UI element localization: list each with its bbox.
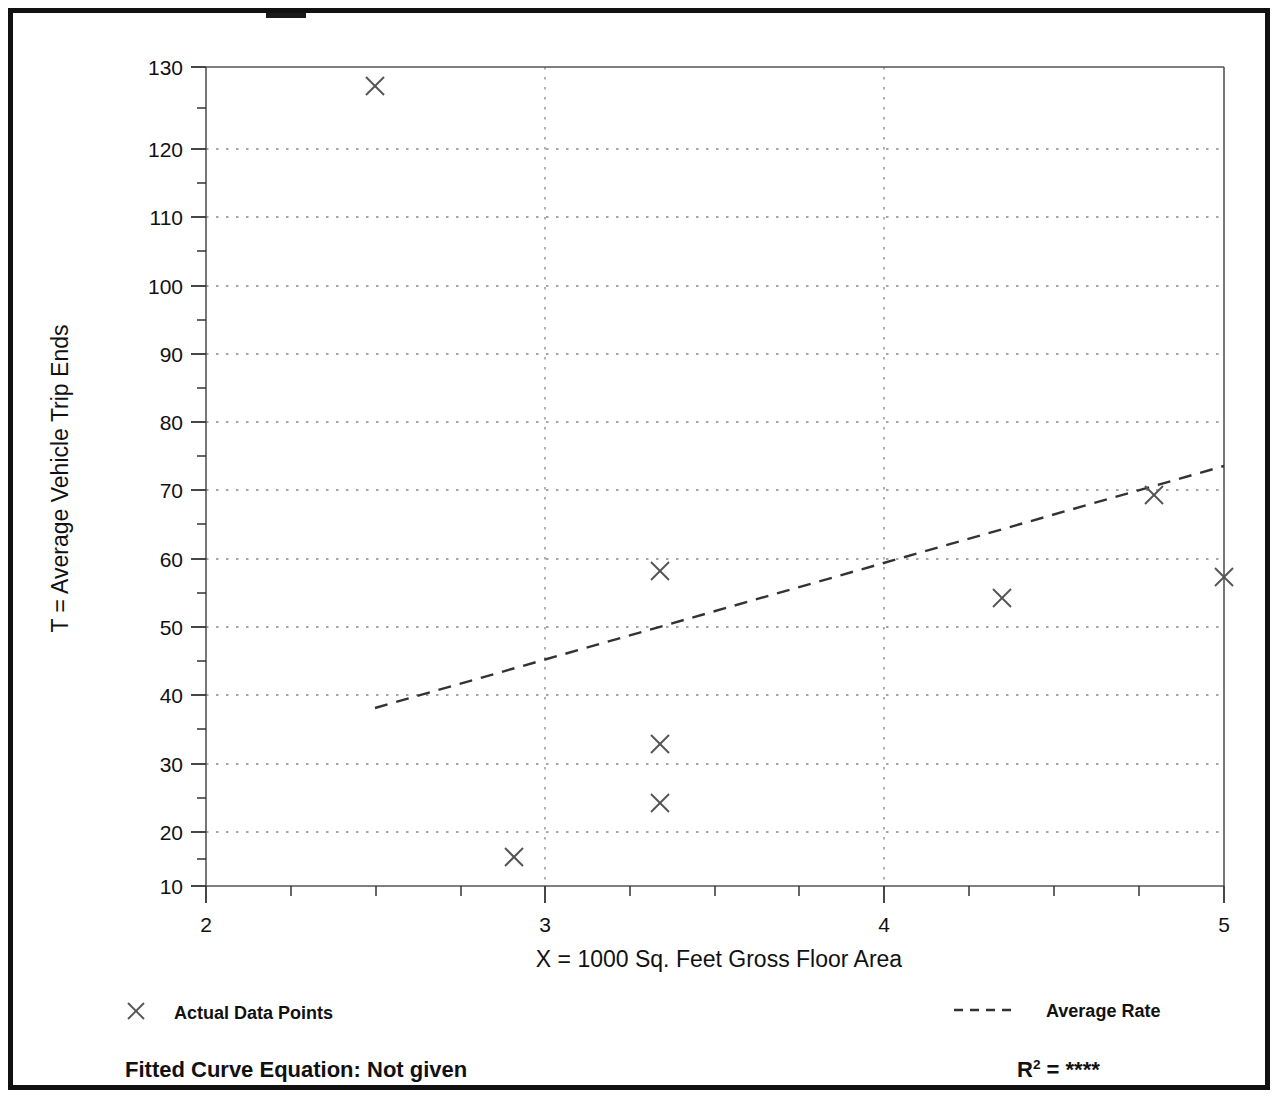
legend-label-average-rate: Average Rate [1046, 1001, 1160, 1022]
horizontal-gridlines [206, 149, 1224, 832]
data-point-marker [366, 77, 384, 95]
data-point-marker [651, 794, 669, 812]
data-point-marker [505, 848, 523, 866]
plot-area: 130 120 110 100 90 80 70 60 50 40 30 20 … [13, 13, 1265, 1085]
y-tick-label: 110 [121, 206, 183, 230]
r-squared-symbol: R [1017, 1057, 1033, 1082]
y-axis-title: T = Average Vehicle Trip Ends [47, 284, 74, 674]
y-tick-label: 10 [121, 875, 183, 899]
x-minor-ticks [291, 886, 1139, 896]
data-point-markers [366, 77, 1233, 866]
data-point-marker [651, 735, 669, 753]
chart-figure-frame: 130 120 110 100 90 80 70 60 50 40 30 20 … [8, 8, 1270, 1090]
x-tick-label: 3 [515, 913, 575, 937]
r-squared-value: R2 = **** [1017, 1057, 1100, 1083]
data-point-marker [993, 589, 1011, 607]
plot-axes [206, 67, 1224, 886]
x-tick-label: 5 [1194, 913, 1254, 937]
vertical-gridlines [545, 67, 884, 886]
r-squared-stars: **** [1066, 1057, 1100, 1082]
y-tick-label: 20 [121, 821, 183, 845]
legend-label-data-points: Actual Data Points [174, 1003, 333, 1024]
x-marker-icon [125, 1000, 147, 1027]
average-rate-line [375, 466, 1224, 708]
data-point-marker [1145, 486, 1163, 504]
y-tick-label: 100 [121, 275, 183, 299]
y-minor-ticks [197, 108, 206, 859]
y-tick-label: 40 [121, 684, 183, 708]
data-point-marker [651, 562, 669, 580]
legend-actual-data-points: Actual Data Points [125, 1000, 333, 1027]
x-tick-label: 2 [176, 913, 236, 937]
y-tick-label: 130 [121, 56, 183, 80]
x-axis-title: X = 1000 Sq. Feet Gross Floor Area [210, 946, 1228, 973]
x-tick-label: 4 [854, 913, 914, 937]
y-tick-label: 80 [121, 411, 183, 435]
y-tick-label: 120 [121, 138, 183, 162]
y-tick-label: 30 [121, 753, 183, 777]
y-tick-label: 60 [121, 548, 183, 572]
y-tick-label: 70 [121, 479, 183, 503]
y-tick-label: 90 [121, 343, 183, 367]
dashed-line-icon [953, 1001, 1019, 1022]
legend-average-rate: Average Rate [953, 1000, 1160, 1022]
y-tick-label: 50 [121, 616, 183, 640]
y-major-ticks [191, 67, 206, 886]
fitted-curve-equation: Fitted Curve Equation: Not given [125, 1057, 467, 1083]
r-squared-equals: = [1040, 1057, 1065, 1082]
